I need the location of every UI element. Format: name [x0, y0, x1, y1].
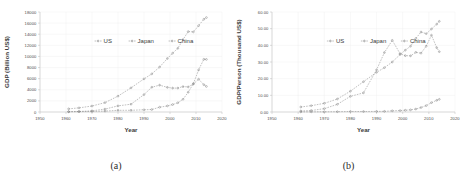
legend-label-china: China [178, 38, 194, 44]
series-point-japan [438, 51, 440, 53]
series-point-us [172, 52, 174, 54]
y-axis-title: GDP (Billion US$) [3, 36, 10, 88]
x-tick-label: 1960 [61, 116, 71, 121]
x-tick-label: 1980 [346, 116, 356, 121]
x-tick-label: 2020 [217, 116, 227, 121]
panel-a: 0200040006000800010000120001400016000180… [0, 0, 232, 173]
y-tick-label: 6000 [27, 76, 37, 81]
panel-a-caption: (a) [0, 160, 232, 171]
series-point-japan [206, 86, 208, 88]
chart-legend: USJapanChina [95, 38, 194, 44]
y-tick-label: 8000 [27, 65, 37, 70]
chart-a-svg: 0200040006000800010000120001400016000180… [0, 0, 232, 152]
y-tick-label: 50.00 [258, 26, 269, 31]
y-tick-label: 18000 [25, 10, 38, 15]
panel-b-caption: (b) [232, 160, 465, 171]
legend-label-us: US [336, 38, 344, 44]
x-axis-title: Year [124, 126, 138, 133]
x-tick-label: 2000 [398, 116, 408, 121]
series-point-china [438, 98, 440, 100]
y-tick-label: 30.00 [258, 60, 269, 65]
y-tick-label: 0.00 [260, 110, 269, 115]
x-tick-label: 2000 [165, 116, 175, 121]
series-point-us [130, 87, 132, 89]
x-tick-label: 1980 [113, 116, 123, 121]
series-point-us [336, 98, 338, 100]
x-tick-label: 1970 [87, 116, 97, 121]
x-tick-label: 2020 [450, 116, 460, 121]
y-tick-label: 40.00 [258, 43, 269, 48]
legend-label-china: China [410, 38, 426, 44]
series-line-japan [301, 35, 440, 111]
x-tick-label: 2010 [424, 116, 434, 121]
y-tick-label: 16000 [25, 21, 38, 26]
series-line-japan [69, 79, 207, 112]
series-point-us [193, 31, 195, 33]
x-tick-label: 2010 [191, 116, 201, 121]
series-point-japan [336, 103, 338, 105]
x-tick-label: 1950 [35, 116, 45, 121]
series-point-us [198, 25, 200, 27]
series-point-us [404, 49, 406, 51]
series-point-us [384, 67, 386, 69]
x-axis-title: Year [357, 126, 371, 133]
y-tick-label: 10.00 [258, 93, 269, 98]
series-point-china [206, 58, 208, 60]
y-tick-label: 20.00 [258, 76, 269, 81]
y-tick-label: 14000 [25, 32, 38, 37]
chart-legend: USJapanChina [327, 38, 426, 44]
x-tick-label: 1990 [139, 116, 149, 121]
y-axis-title: GDP/Person (Thousand US$) [235, 19, 242, 104]
series-line-us [69, 18, 207, 109]
series-point-us [203, 18, 205, 20]
legend-label-japan: Japan [370, 38, 386, 44]
legend-label-us: US [104, 38, 112, 44]
series-point-japan [391, 39, 393, 41]
x-tick-label: 1950 [267, 116, 277, 121]
y-tick-label: 0 [34, 110, 37, 115]
series-point-japan [203, 84, 205, 86]
series-point-us [425, 33, 427, 35]
chart-b-svg: 0.0010.0020.0030.0040.0050.0060.00195019… [232, 0, 465, 152]
series-point-us [438, 20, 440, 22]
figure-container: 0200040006000800010000120001400016000180… [0, 0, 465, 173]
x-tick-label: 1990 [372, 116, 382, 121]
panel-b: 0.0010.0020.0030.0040.0050.0060.00195019… [232, 0, 465, 173]
y-tick-label: 60.00 [258, 10, 269, 15]
series-line-china [301, 99, 440, 112]
legend-label-japan: Japan [138, 38, 154, 44]
y-tick-label: 10000 [25, 54, 38, 59]
series-line-china [69, 59, 207, 111]
x-tick-label: 1970 [320, 116, 330, 121]
y-tick-label: 12000 [25, 43, 38, 48]
y-tick-label: 4000 [27, 87, 37, 92]
y-tick-label: 2000 [27, 98, 37, 103]
series-line-us [301, 21, 440, 107]
x-tick-label: 1960 [293, 116, 303, 121]
